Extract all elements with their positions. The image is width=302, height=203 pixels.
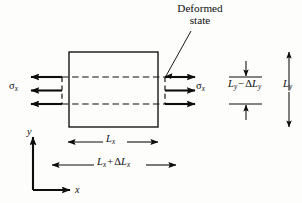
coordinate-axes: [33, 137, 70, 190]
deformed-state-leader-line: [166, 31, 191, 79]
deformed-state-label: Deformed state: [163, 2, 237, 26]
delta-glyph-x: Δ: [114, 156, 121, 167]
stress-arrows-right: [165, 77, 195, 104]
sigma-subscript-left: x: [15, 85, 18, 93]
y-axis-glyph: y: [27, 126, 32, 137]
x-axis-glyph: x: [75, 184, 80, 195]
ly-sub: y: [289, 83, 292, 91]
strain-diagram-figure: Deformed state σx σx Ly−ΔLy Ly Lx Lx+ΔLx…: [0, 0, 302, 203]
original-element-rectangle: [69, 52, 158, 127]
lx-plus-sub2: x: [127, 161, 130, 169]
deformed-state-line2: state: [163, 14, 237, 26]
ly-minus-sub2: y: [258, 83, 261, 91]
stress-label-right: σx: [196, 80, 205, 94]
x-axis-label: x: [75, 184, 80, 195]
lx-sub: x: [112, 138, 115, 146]
stress-label-left: σx: [9, 80, 18, 94]
sigma-subscript-right-x: x: [202, 85, 205, 93]
deformed-state-line1: Deformed: [177, 2, 222, 14]
original-height-label: Ly: [283, 78, 292, 92]
deformed-element-rectangle: [62, 77, 165, 104]
stress-arrows-left: [31, 77, 62, 104]
deformed-width-label: Lx+ΔLx: [97, 156, 130, 170]
delta-glyph: Δ: [245, 78, 252, 89]
original-width-label: Lx: [106, 133, 115, 147]
y-axis-label: y: [27, 126, 32, 137]
minus-operator: −: [237, 78, 245, 89]
deformed-height-label: Ly−ΔLy: [228, 78, 261, 92]
diagram-canvas: [0, 0, 302, 203]
plus-operator: +: [106, 156, 114, 167]
